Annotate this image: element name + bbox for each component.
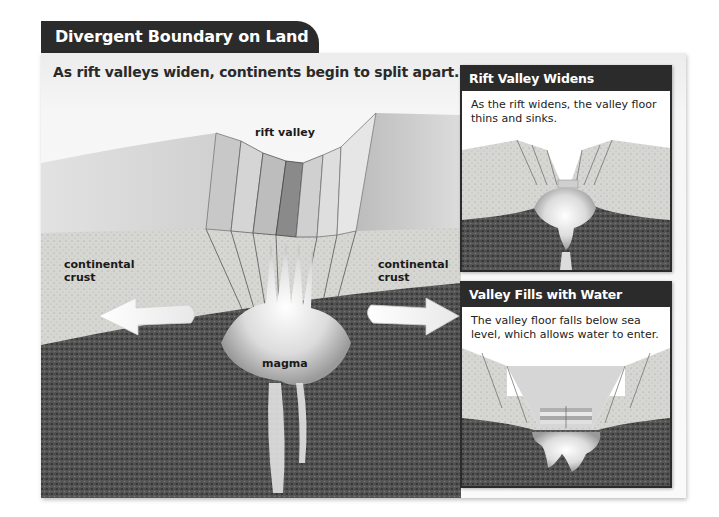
- left-continental-crust-label: continental crust: [64, 258, 135, 284]
- inset-title: Rift Valley Widens: [462, 67, 670, 91]
- inset-valley-fills-with-water: Valley Fills with Water The valley floor…: [460, 281, 672, 488]
- figure-title: Divergent Boundary on Land: [41, 21, 319, 53]
- inset-description: As the rift widens, the valley floor thi…: [462, 91, 670, 126]
- figure-subtitle: As rift valleys widen, continents begin …: [53, 64, 459, 80]
- rift-widens-illustration: [462, 140, 670, 270]
- left-crust-label-line2: crust: [64, 271, 135, 284]
- right-crust-label-line1: continental: [378, 258, 449, 271]
- inset-description: The valley floor falls below sea level, …: [462, 307, 670, 342]
- inset-rift-valley-widens: Rift Valley Widens As the rift widens, t…: [460, 65, 672, 272]
- inset-title: Valley Fills with Water: [462, 283, 670, 307]
- right-continental-crust-label: continental crust: [378, 258, 449, 284]
- diagram-panel: As rift valleys widen, continents begin …: [41, 53, 686, 498]
- right-crust-label-line2: crust: [378, 271, 449, 284]
- magma-label: magma: [262, 357, 308, 370]
- rift-valley-label: rift valley: [255, 126, 315, 139]
- valley-fills-illustration: [462, 348, 670, 486]
- left-crust-label-line1: continental: [64, 258, 135, 271]
